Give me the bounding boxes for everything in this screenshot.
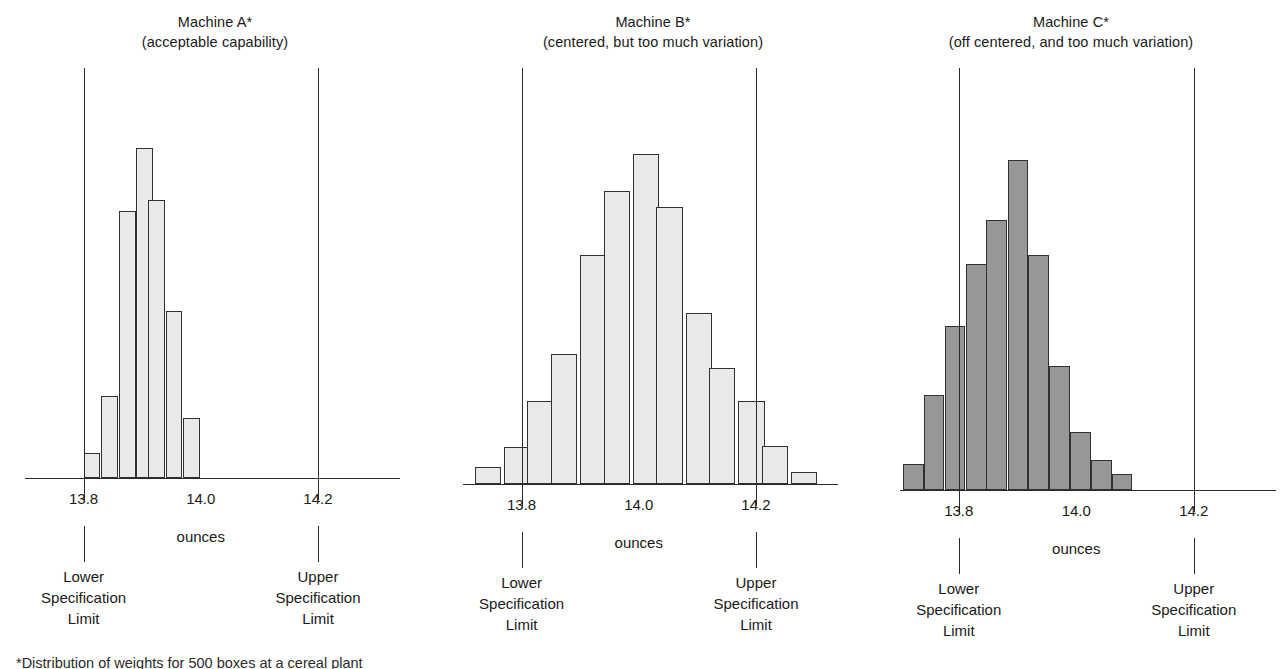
histogram-bar — [551, 354, 577, 484]
histogram-bar — [762, 446, 788, 484]
chart-panel-machine-b: Machine B* (centered, but too much varia… — [438, 0, 868, 669]
x-axis-line — [900, 490, 1276, 491]
histogram-bar — [924, 395, 945, 490]
histogram-bar — [504, 447, 530, 484]
histogram-bar — [166, 311, 183, 478]
process-capability-figure: Machine A* (acceptable capability) Lower… — [0, 0, 1286, 669]
histogram-bar — [1008, 160, 1029, 490]
histogram-bar — [475, 467, 501, 484]
spec-caption-line: Specification — [1119, 599, 1269, 620]
histogram-bar — [183, 418, 200, 478]
x-tick-label: 14.2 — [1159, 502, 1229, 519]
spec-caption-line: Lower — [9, 566, 159, 587]
lower-spec-limit-caption: LowerSpecificationLimit — [447, 572, 597, 635]
upper-spec-limit-caption: UpperSpecificationLimit — [1119, 578, 1269, 641]
lower-spec-limit-line — [959, 68, 960, 490]
spec-caption-line: Lower — [447, 572, 597, 593]
x-axis-line — [25, 478, 400, 479]
histogram-bar — [633, 154, 659, 484]
histogram-bar — [527, 401, 553, 484]
histogram-bar — [656, 207, 682, 484]
plot-area-machine-b: LowerSpecificationLimitUpperSpecificatio… — [438, 0, 868, 669]
histogram-bar — [1049, 366, 1070, 490]
lower-spec-limit-line — [84, 68, 85, 478]
upper-spec-limit-caption: UpperSpecificationLimit — [243, 566, 393, 629]
histogram-bar — [580, 255, 606, 484]
spec-caption-line: Limit — [884, 620, 1034, 641]
spec-caption-line: Limit — [1119, 620, 1269, 641]
upper-spec-limit-caption: UpperSpecificationLimit — [681, 572, 831, 635]
histogram-bar — [1070, 432, 1091, 490]
upper-spec-limit-leader — [756, 532, 757, 568]
spec-caption-line: Limit — [243, 608, 393, 629]
lower-spec-limit-leader — [84, 526, 85, 562]
spec-caption-line: Limit — [9, 608, 159, 629]
spec-caption-line: Specification — [9, 587, 159, 608]
x-tick-label: 14.0 — [166, 490, 236, 507]
x-tick-label: 14.2 — [283, 490, 353, 507]
upper-spec-limit-leader — [318, 526, 319, 562]
chart-panel-machine-a: Machine A* (acceptable capability) Lower… — [0, 0, 430, 669]
x-tick-label: 13.8 — [487, 496, 557, 513]
spec-caption-line: Specification — [884, 599, 1034, 620]
lower-spec-limit-caption: LowerSpecificationLimit — [9, 566, 159, 629]
histogram-bar — [986, 220, 1007, 490]
upper-spec-limit-line — [1194, 68, 1195, 490]
histogram-bar — [686, 313, 712, 484]
histogram-bar — [119, 211, 136, 478]
histogram-bar — [1028, 255, 1049, 490]
lower-spec-limit-leader — [522, 532, 523, 568]
x-tick-label: 14.2 — [721, 496, 791, 513]
spec-caption-line: Limit — [447, 614, 597, 635]
spec-caption-line: Upper — [681, 572, 831, 593]
plot-area-machine-a: LowerSpecificationLimitUpperSpecificatio… — [0, 0, 430, 669]
lower-spec-limit-line — [522, 68, 523, 484]
spec-caption-line: Upper — [243, 566, 393, 587]
upper-spec-limit-line — [318, 68, 319, 478]
figure-footnote: *Distribution of weights for 500 boxes a… — [16, 655, 363, 669]
x-tick-label: 14.0 — [1041, 502, 1111, 519]
histogram-bar — [709, 368, 735, 484]
histogram-bar — [101, 396, 118, 478]
histogram-bar — [604, 191, 630, 484]
plot-area-machine-c: LowerSpecificationLimitUpperSpecificatio… — [856, 0, 1286, 669]
histogram-bar — [903, 464, 924, 490]
histogram-bar — [148, 200, 165, 478]
x-axis-label: ounces — [141, 528, 261, 545]
chart-panel-machine-c: Machine C* (off centered, and too much v… — [856, 0, 1286, 669]
spec-caption-line: Specification — [447, 593, 597, 614]
spec-caption-line: Lower — [884, 578, 1034, 599]
x-axis-line — [463, 484, 838, 485]
upper-spec-limit-leader — [1194, 538, 1195, 574]
x-tick-label: 14.0 — [604, 496, 674, 513]
spec-caption-line: Specification — [243, 587, 393, 608]
x-tick-label: 13.8 — [49, 490, 119, 507]
spec-caption-line: Upper — [1119, 578, 1269, 599]
spec-caption-line: Specification — [681, 593, 831, 614]
histogram-bar — [966, 264, 987, 490]
histogram-bar — [1112, 474, 1133, 490]
histogram-bar — [945, 326, 966, 490]
histogram-bar — [791, 472, 817, 484]
x-axis-label: ounces — [1016, 540, 1136, 557]
x-axis-label: ounces — [579, 534, 699, 551]
histogram-bar — [738, 401, 764, 484]
histogram-bar — [84, 453, 101, 478]
upper-spec-limit-line — [756, 68, 757, 484]
lower-spec-limit-leader — [959, 538, 960, 574]
x-tick-label: 13.8 — [924, 502, 994, 519]
spec-caption-line: Limit — [681, 614, 831, 635]
histogram-bar — [1091, 460, 1112, 490]
lower-spec-limit-caption: LowerSpecificationLimit — [884, 578, 1034, 641]
